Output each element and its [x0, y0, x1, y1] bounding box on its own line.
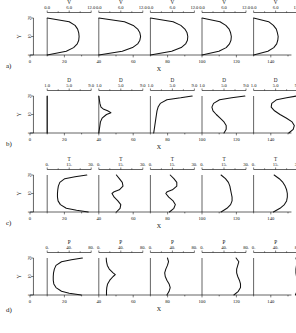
profile-curve — [165, 258, 171, 295]
svg-text:1.0: 1.0 — [148, 83, 154, 88]
svg-text:0: 0 — [27, 53, 32, 56]
svg-text:Y: Y — [16, 112, 22, 116]
svg-text:0.: 0. — [149, 245, 152, 250]
svg-text:60: 60 — [131, 216, 136, 221]
svg-text:40.: 40. — [273, 245, 279, 250]
svg-text:V: V — [119, 0, 123, 5]
svg-text:9.0: 9.0 — [192, 83, 198, 88]
svg-text:60: 60 — [131, 59, 136, 64]
panel-b: b) 020406080100120140X01020Y1.05.09.0D1.… — [0, 78, 296, 156]
profile-curve — [254, 18, 279, 55]
svg-text:9.0: 9.0 — [295, 83, 296, 88]
profile-curve — [221, 175, 232, 212]
svg-text:20: 20 — [62, 137, 67, 142]
svg-text:80.: 80. — [88, 245, 94, 250]
svg-text:1.0: 1.0 — [96, 83, 102, 88]
svg-text:100: 100 — [199, 216, 207, 221]
svg-text:80: 80 — [165, 299, 170, 304]
svg-text:V: V — [171, 0, 175, 5]
profile-curve — [53, 258, 82, 295]
svg-text:D: D — [119, 78, 123, 83]
svg-text:X: X — [157, 66, 162, 72]
svg-text:40.: 40. — [66, 245, 72, 250]
svg-text:120: 120 — [233, 137, 241, 142]
svg-text:0: 0 — [29, 299, 32, 304]
svg-text:80.: 80. — [140, 245, 146, 250]
svg-text:0.0: 0.0 — [44, 5, 50, 10]
svg-text:D: D — [222, 78, 226, 83]
svg-text:Y: Y — [16, 274, 22, 278]
svg-text:V: V — [222, 0, 226, 5]
svg-text:140: 140 — [267, 299, 275, 304]
svg-text:80.: 80. — [192, 245, 198, 250]
profile-curve — [47, 18, 79, 55]
svg-text:20: 20 — [27, 15, 32, 20]
panel-d: d) 020406080100120140X01020Y0.40.80.P0.4… — [0, 240, 296, 318]
svg-text:P: P — [223, 240, 226, 245]
svg-text:10: 10 — [27, 34, 32, 39]
svg-text:T: T — [171, 157, 175, 162]
svg-text:12.0: 12.0 — [294, 5, 296, 10]
svg-text:Y: Y — [16, 191, 22, 195]
svg-text:5.0: 5.0 — [221, 83, 227, 88]
svg-text:15.: 15. — [273, 162, 279, 167]
svg-text:0.: 0. — [252, 162, 255, 167]
svg-text:5.0: 5.0 — [66, 83, 72, 88]
svg-text:0.: 0. — [200, 245, 203, 250]
svg-text:T: T — [119, 157, 123, 162]
svg-text:10: 10 — [27, 112, 32, 117]
svg-text:0: 0 — [29, 137, 32, 142]
svg-text:0.0: 0.0 — [96, 5, 102, 10]
svg-text:Y: Y — [16, 34, 22, 38]
svg-text:80: 80 — [165, 137, 170, 142]
svg-text:0: 0 — [29, 59, 32, 64]
svg-text:0.: 0. — [252, 245, 255, 250]
svg-text:0.: 0. — [45, 245, 48, 250]
svg-text:15.: 15. — [170, 162, 176, 167]
svg-text:5.0: 5.0 — [170, 83, 176, 88]
svg-text:6.0: 6.0 — [66, 5, 72, 10]
profile-curve — [154, 96, 193, 133]
svg-text:T: T — [274, 157, 278, 162]
svg-text:80.: 80. — [295, 245, 296, 250]
svg-text:40: 40 — [97, 59, 102, 64]
svg-text:X: X — [157, 306, 162, 312]
svg-text:40: 40 — [97, 137, 102, 142]
svg-text:15.: 15. — [221, 162, 227, 167]
svg-text:6.0: 6.0 — [170, 5, 176, 10]
svg-text:0: 0 — [27, 293, 32, 296]
svg-text:40.: 40. — [170, 245, 176, 250]
svg-text:9.0: 9.0 — [140, 83, 146, 88]
panel-c-plot: 020406080100120140X01020Y0.15.30.T0.15.3… — [0, 157, 296, 235]
svg-text:6.0: 6.0 — [118, 5, 124, 10]
svg-text:V: V — [274, 0, 278, 5]
svg-text:120: 120 — [233, 216, 241, 221]
svg-text:P: P — [171, 240, 174, 245]
profile-curve — [112, 175, 123, 212]
panel-d-plot: 020406080100120140X01020Y0.40.80.P0.40.8… — [0, 240, 296, 318]
profile-curve — [273, 175, 287, 212]
svg-text:20: 20 — [62, 299, 67, 304]
svg-text:0.: 0. — [45, 162, 48, 167]
svg-text:20: 20 — [62, 216, 67, 221]
svg-text:20: 20 — [27, 93, 32, 98]
svg-text:30.: 30. — [295, 162, 296, 167]
profile-curve — [166, 175, 177, 212]
svg-text:1.0: 1.0 — [251, 83, 257, 88]
svg-text:15.: 15. — [66, 162, 72, 167]
svg-text:V: V — [67, 0, 71, 5]
svg-text:30.: 30. — [140, 162, 146, 167]
svg-text:D: D — [171, 78, 175, 83]
svg-text:140: 140 — [267, 59, 275, 64]
svg-text:9.0: 9.0 — [243, 83, 249, 88]
svg-text:40.: 40. — [221, 245, 227, 250]
svg-text:60: 60 — [131, 299, 136, 304]
profile-curve — [271, 96, 296, 133]
svg-text:P: P — [68, 240, 71, 245]
svg-text:T: T — [222, 157, 226, 162]
svg-text:0.0: 0.0 — [199, 5, 205, 10]
panel-a-plot: 020406080100120140X01020Y0.06.012.0V0.06… — [0, 0, 296, 78]
svg-text:30.: 30. — [243, 162, 249, 167]
svg-text:40: 40 — [97, 299, 102, 304]
svg-text:10: 10 — [27, 191, 32, 196]
